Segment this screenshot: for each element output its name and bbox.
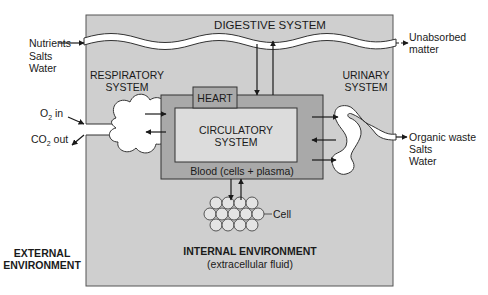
extracellular-fluid-label: (extracellular fluid) xyxy=(150,258,350,270)
o2-in-label: O2 in xyxy=(40,107,63,124)
water-in-label: Water xyxy=(29,62,57,74)
internal-environment-label: INTERNAL ENVIRONMENT xyxy=(150,245,350,257)
respiratory-system-label-1: RESPIRATORY xyxy=(88,69,166,81)
urinary-system-label-2: SYSTEM xyxy=(330,81,402,93)
blood-label: Blood (cells + plasma) xyxy=(161,165,323,177)
external-environment-label-2: ENVIRONMENT xyxy=(0,259,84,271)
o2-symbol: O xyxy=(40,107,48,119)
nutrients-label: Nutrients xyxy=(29,37,71,49)
cell-cluster xyxy=(204,197,264,231)
circulatory-system-label-2: SYSTEM xyxy=(175,136,297,148)
cell-label: Cell xyxy=(273,208,291,220)
external-environment-label-1: EXTERNAL xyxy=(0,247,84,259)
co2-out-text: out xyxy=(51,133,69,145)
digestive-system-label: DIGESTIVE SYSTEM xyxy=(190,19,350,31)
salts-in-label: Salts xyxy=(29,50,52,62)
salts-out-label: Salts xyxy=(409,143,432,155)
circulatory-system-label-1: CIRCULATORY xyxy=(175,124,297,136)
unabsorbed-label-1: Unabsorbed xyxy=(409,31,466,43)
heart-label: HEART xyxy=(193,92,237,104)
respiratory-system-label-2: SYSTEM xyxy=(88,81,166,93)
co2-symbol: CO xyxy=(31,133,47,145)
co2-out-label: CO2 out xyxy=(31,133,68,150)
unabsorbed-label-2: matter xyxy=(409,43,439,55)
water-out-label: Water xyxy=(409,155,437,167)
organic-waste-label: Organic waste xyxy=(409,131,476,143)
o2-in-text: in xyxy=(52,107,63,119)
urinary-system-label-1: URINARY xyxy=(330,69,402,81)
